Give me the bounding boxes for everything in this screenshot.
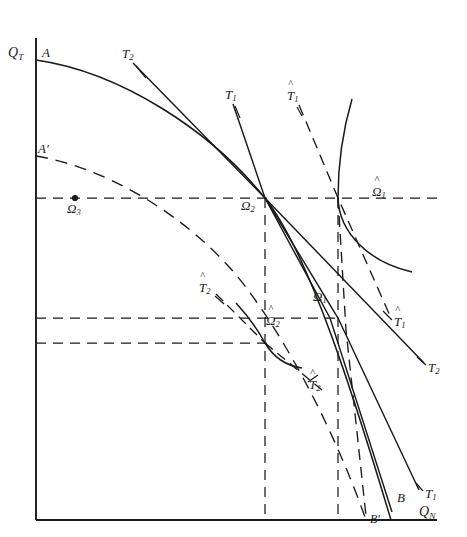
economics-diagram: QT QN A A′ B B′ T2 T1 T1 T1 T2 T1 T2 T2 … [0, 0, 467, 537]
point-label-omega3: Ω3 [67, 202, 81, 217]
point-label-omega2-hat: Ω2 [266, 314, 280, 329]
curve-label-t1-top: T1 [225, 88, 237, 103]
leader-t1-hat-right [383, 311, 392, 320]
ppf-inner-curve [36, 156, 366, 520]
axis-label-qn: QN [419, 505, 435, 521]
curve-label-t1-hat-right: T1 [394, 315, 406, 330]
point-label-b-prime: B′ [370, 513, 380, 525]
point-label-a: A [42, 46, 50, 59]
leader-t2-right [417, 357, 426, 365]
curve-label-t1-hat-top: T1 [287, 89, 299, 104]
price-line-t1-segment-lower [265, 198, 392, 512]
guide-lines-group [36, 198, 438, 520]
curve-label-t2-hat-lower: T2 [309, 378, 321, 393]
curve-label-t2-hat-left: T2 [199, 281, 211, 296]
point-label-omega2: Ω2 [241, 199, 255, 214]
point-label-a-prime: A′ [38, 142, 49, 155]
axis-label-qt: QT [8, 46, 23, 62]
point-label-omega1-hat: Ω1 [372, 185, 386, 200]
curve-label-t2-right: T2 [428, 361, 440, 376]
label-leader-lines [136, 66, 426, 491]
diagram-canvas [0, 0, 467, 537]
curve-label-t1-bottom: T1 [425, 487, 437, 502]
point-label-b: B [397, 491, 405, 504]
point-label-omega1: Ω1 [313, 290, 327, 305]
curve-label-t2-top: T2 [122, 47, 134, 62]
leader-t2-top [136, 66, 146, 78]
